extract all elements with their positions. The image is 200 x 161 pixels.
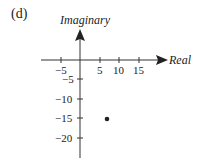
x-tick-label: 15 bbox=[133, 64, 144, 76]
y-tick-label: −5 bbox=[62, 73, 74, 85]
y-tick-label: −20 bbox=[55, 132, 72, 144]
complex-plane-chart bbox=[0, 0, 200, 161]
x-tick-label: 5 bbox=[97, 64, 103, 76]
data-point bbox=[105, 117, 110, 122]
y-tick-label: −10 bbox=[55, 93, 72, 105]
x-tick-label: 10 bbox=[113, 64, 124, 76]
y-tick-label: −15 bbox=[55, 112, 72, 124]
